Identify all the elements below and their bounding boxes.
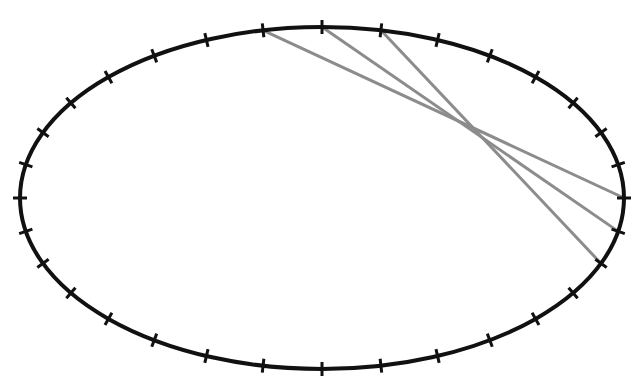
tick-mark bbox=[262, 359, 264, 373]
tick-mark bbox=[262, 23, 264, 37]
tick-mark bbox=[205, 349, 208, 363]
tick-mark bbox=[436, 33, 439, 47]
chord-line bbox=[322, 27, 618, 231]
tick-mark bbox=[436, 349, 439, 363]
ellipse-chord-diagram bbox=[0, 0, 644, 389]
chord-line bbox=[263, 30, 624, 198]
tick-mark bbox=[380, 23, 382, 37]
chord-line bbox=[381, 30, 601, 263]
tick-mark bbox=[380, 359, 382, 373]
chord-lines bbox=[263, 27, 624, 263]
tick-mark bbox=[205, 33, 208, 47]
